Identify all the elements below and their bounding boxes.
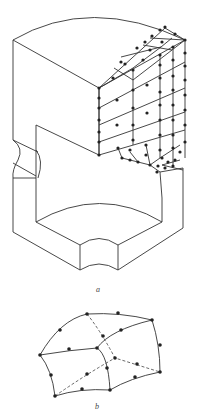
label-b: b [95,402,99,411]
figure-b-element [38,311,162,398]
figure-a-solid [0,0,198,420]
mesh-grid [99,28,185,172]
label-a: a [96,285,100,294]
